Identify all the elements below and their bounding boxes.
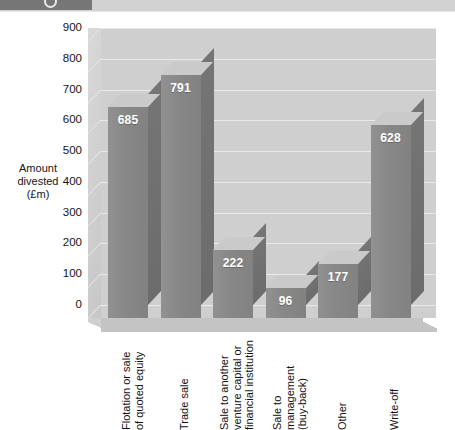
y-axis-tick-label: 400 <box>38 175 82 187</box>
y-axis-tick-label: 600 <box>38 113 82 125</box>
bar-value-label: 685 <box>108 113 148 127</box>
y-axis-tick-label: 100 <box>38 267 82 279</box>
bar-side-face <box>411 98 424 305</box>
y-axis-tick-label: 0 <box>38 298 82 310</box>
x-axis-category-label: Trade sale <box>178 334 191 430</box>
bar-value-label: 177 <box>318 270 358 284</box>
plot-area-floor <box>88 318 436 332</box>
bar-column: 177 <box>318 264 358 318</box>
bar-front-face <box>371 125 411 318</box>
bar-top-face <box>161 62 201 75</box>
figure-number-badge <box>0 0 92 10</box>
bar-value-label: 96 <box>266 294 306 308</box>
bar-front-face <box>108 107 148 318</box>
floor-left-corner <box>88 318 101 332</box>
circle-number-icon <box>44 0 57 8</box>
gridline <box>100 28 436 29</box>
bar-column: 685 <box>108 107 148 318</box>
y-axis-tick-label: 800 <box>38 52 82 64</box>
y-axis-tick-label: 300 <box>38 206 82 218</box>
gridline <box>100 59 436 60</box>
bar-side-face <box>253 223 266 305</box>
bar-top-face <box>213 237 253 250</box>
bar-top-face <box>266 275 306 288</box>
bar-front-face <box>161 75 201 318</box>
bar-column: 628 <box>371 125 411 318</box>
y-axis-tick-label: 500 <box>38 144 82 156</box>
bar-top-face <box>108 94 148 107</box>
bar-value-label: 791 <box>161 81 201 95</box>
y-axis-ticks: 9008007006005004003002001000 <box>30 12 82 332</box>
bar-side-face <box>148 80 161 305</box>
bar-value-label: 222 <box>213 256 253 270</box>
y-axis-tick-label: 200 <box>38 236 82 248</box>
bar-side-face <box>201 48 214 305</box>
y-axis-tick-label: 700 <box>38 83 82 95</box>
bar-top-face <box>371 112 411 125</box>
floor-right-corner <box>423 318 437 332</box>
bar-top-face <box>318 251 358 264</box>
y-axis-tick-label: 900 <box>38 21 82 33</box>
bar-column: 222 <box>213 250 253 318</box>
x-axis-category-label: Flotation or sale of quoted equity <box>120 334 145 430</box>
figure-header-strip <box>0 0 455 11</box>
x-axis-category-label: Sale to another venture capital or finan… <box>218 334 256 430</box>
chart-scene: Amount divested (£m) 9008007006005004003… <box>0 12 455 419</box>
bar-column: 791 <box>161 75 201 318</box>
bar-column: 96 <box>266 288 306 318</box>
figure-title-clipped <box>100 0 450 2</box>
x-axis-category-label: Write-off <box>388 334 401 430</box>
bar-value-label: 628 <box>371 131 411 145</box>
x-axis-category-label: Other <box>336 334 349 430</box>
x-axis-category-label: Sale to management (buy-back) <box>271 334 309 430</box>
